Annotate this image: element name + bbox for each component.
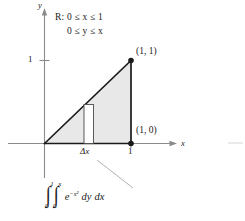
y-axis-tick-label: 1 [28,55,33,64]
integration-region-figure: y x 1 1 R: 0 ≤ x ≤ 1 0 ≤ y ≤ x (1, 1) (1… [0,0,245,221]
integral-expression: ∫ 1 0 ∫ x 0 e−x² dy dx [45,183,104,207]
outer-integral: ∫ 1 0 [45,183,52,207]
outer-integral-upper-limit: 1 [50,180,54,188]
vertex-dot-top-right [128,58,134,64]
x-axis-tick-label: 1 [128,147,133,156]
inner-integral-limits: x 0 [56,183,60,207]
inner-integral: ∫ x 0 [53,183,60,207]
integrand: e−x² [65,191,79,202]
integrand-exponent: −x² [69,189,78,196]
region-description-line-2: 0 ≤ y ≤ x [67,27,103,37]
outer-integral-limits: 1 0 [48,183,52,207]
differential-outer: dx [94,191,104,202]
inner-integral-upper-limit: x [58,180,62,188]
outer-integral-lower-limit: 0 [45,202,49,210]
y-axis-label: y [38,1,42,10]
differential-inner: dy [82,191,92,202]
x-axis-label: x [181,139,185,148]
delta-x-label: Δx [80,147,89,156]
vertex-label-bottom-right: (1, 0) [136,126,157,136]
representative-strip [84,105,94,144]
y-axis-arrowhead [42,8,47,16]
figure-canvas [0,0,245,221]
region-description-line-1: R: 0 ≤ x ≤ 1 [55,13,103,23]
vertex-label-top-right: (1, 1) [136,47,157,57]
inner-integral-lower-limit: 0 [53,202,57,210]
x-axis-arrowhead [170,141,178,146]
